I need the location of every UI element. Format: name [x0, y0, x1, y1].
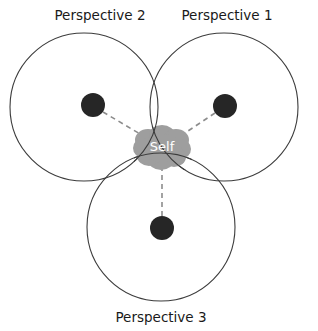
label-perspective-1: Perspective 1: [181, 7, 272, 23]
node-perspective-2: [81, 93, 105, 117]
node-perspective-1: [213, 94, 237, 118]
venn-diagram-figure: Self Perspective 2 Perspective 1 Perspec…: [0, 0, 318, 331]
label-perspective-3: Perspective 3: [115, 309, 206, 325]
node-perspective-3: [150, 216, 174, 240]
diagram-canvas: Self Perspective 2 Perspective 1 Perspec…: [0, 0, 318, 331]
self-label: Self: [150, 139, 175, 154]
label-perspective-2: Perspective 2: [54, 7, 145, 23]
